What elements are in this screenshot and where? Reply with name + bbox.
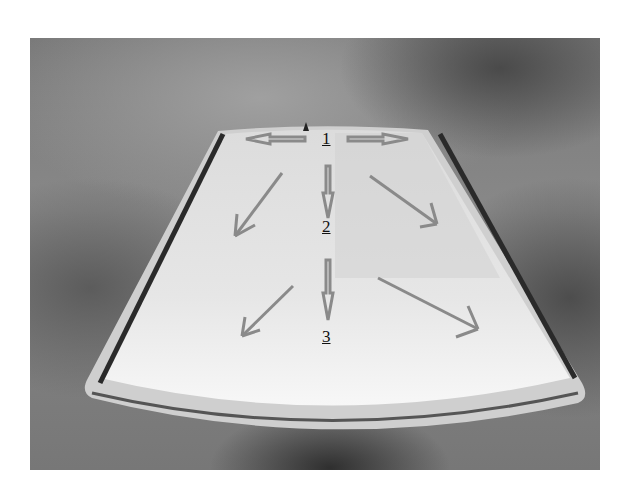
photo: 1 2 3: [30, 38, 600, 470]
plate-illustration: [30, 38, 600, 470]
region-label-1: 1: [322, 130, 331, 147]
region-label-3: 3: [322, 328, 331, 345]
region-label-2: 2: [322, 218, 331, 235]
